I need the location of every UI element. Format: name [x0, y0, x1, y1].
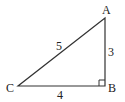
side-label-ab: 3: [108, 45, 114, 59]
right-angle-marker: [99, 80, 105, 86]
side-label-ac: 5: [56, 39, 62, 53]
side-label-cb: 4: [57, 88, 63, 102]
triangle-diagram: A B C 5 3 4: [0, 0, 125, 102]
vertex-label-a: A: [102, 3, 111, 17]
vertex-label-c: C: [6, 81, 14, 95]
vertex-label-b: B: [108, 81, 116, 95]
